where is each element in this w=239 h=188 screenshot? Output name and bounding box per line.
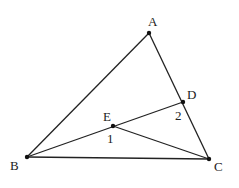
segment-ac [149, 33, 209, 159]
triangle-diagram: A B C D E 1 2 [0, 0, 239, 188]
angle-label-1: 1 [107, 131, 114, 146]
label-a: A [148, 14, 158, 29]
angle-label-2: 2 [175, 108, 182, 123]
point-a [147, 31, 151, 35]
label-d: D [187, 87, 196, 102]
segment-bc [27, 157, 209, 159]
point-b [25, 155, 29, 159]
point-e [111, 124, 115, 128]
segment-ab [27, 33, 149, 157]
point-d [181, 100, 185, 104]
label-b: B [10, 158, 19, 173]
label-c: C [214, 159, 223, 174]
point-c [207, 157, 211, 161]
segment-ec [113, 126, 209, 159]
label-e: E [103, 109, 111, 124]
